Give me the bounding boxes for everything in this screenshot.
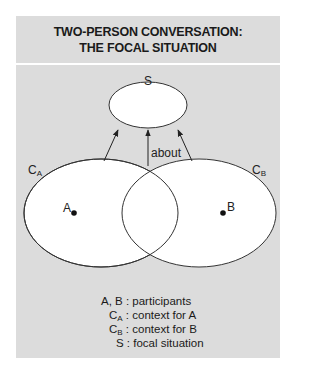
label-s: S xyxy=(144,74,152,88)
participant-a-dot xyxy=(71,210,77,216)
label-a: A xyxy=(63,201,71,215)
label-about: about xyxy=(151,146,181,160)
context-ellipses xyxy=(24,159,276,267)
label-cb: CB xyxy=(252,163,266,178)
legend-row-context-a: CA : context for A xyxy=(109,309,196,323)
label-ca: CA xyxy=(28,163,42,178)
focal-situation-ellipse xyxy=(109,82,187,128)
legend-row-participants: A, B : participants xyxy=(101,295,191,309)
label-b: B xyxy=(227,200,235,214)
participant-b-dot xyxy=(220,210,226,216)
legend-row-context-b: CB : context for B xyxy=(109,323,197,337)
legend-row-focal-situation: S : focal situation xyxy=(116,337,204,351)
